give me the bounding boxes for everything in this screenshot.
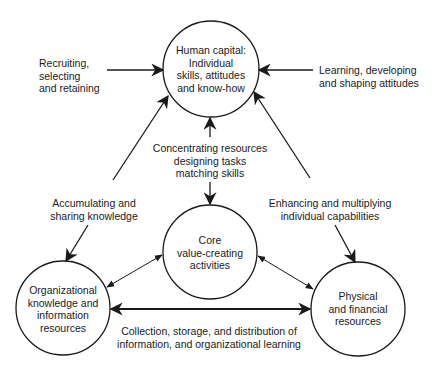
- arrow-enhancing-lower: [335, 225, 355, 262]
- node-org-knowledge-label: Organizational knowledge and information…: [13, 284, 113, 334]
- node-core-label: Core value-creating activities: [160, 234, 260, 272]
- node-human-capital-label: Human capital: Individual skills, attitu…: [161, 44, 261, 94]
- arrow-core-physical: [258, 256, 313, 289]
- arrow-core-org-knowledge: [107, 255, 162, 287]
- edge-label-enhancing: Enhancing and multiplying individual cap…: [265, 197, 395, 222]
- arrow-accumulating-lower: [66, 225, 88, 261]
- diagram-canvas: Human capital: Individual skills, attitu…: [0, 0, 433, 373]
- edge-label-learning: Learning, developing and shaping attitud…: [319, 64, 419, 89]
- edge-label-collection: Collection, storage, and distribution of…: [109, 325, 309, 350]
- edge-label-accumulating: Accumulating and sharing knowledge: [44, 197, 144, 222]
- node-physical-label: Physical and financial resources: [308, 290, 408, 328]
- edge-label-recruiting: Recruiting, selecting and retaining: [39, 57, 100, 95]
- edge-label-concentrating: Concentrating resources designing tasks …: [140, 142, 280, 180]
